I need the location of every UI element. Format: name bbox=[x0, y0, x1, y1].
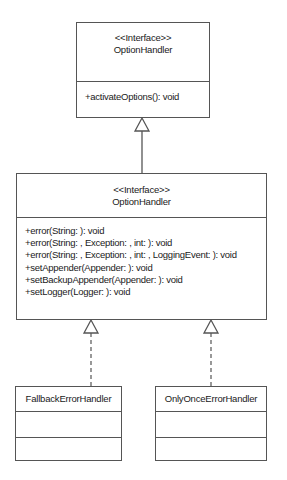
stereotype-label: <<Interface>> bbox=[17, 184, 266, 196]
attributes-compartment bbox=[156, 411, 266, 438]
operations-compartment bbox=[156, 437, 266, 461]
operation: +activateOptions(): void bbox=[77, 82, 209, 103]
interface-name: OptionHandler bbox=[17, 196, 266, 208]
operation: +setBackupAppender(Appender: ): void bbox=[17, 274, 266, 286]
operation: +setAppender(Appender: ): void bbox=[17, 262, 266, 274]
top-interface-box: <<Interface>> OptionHandler +activateOpt… bbox=[76, 22, 210, 118]
class-name: OnlyOnceErrorHandler bbox=[156, 393, 266, 405]
fallback-error-handler-box: FallbackErrorHandler bbox=[15, 386, 122, 461]
middle-interface-header: <<Interface>> OptionHandler bbox=[17, 184, 266, 208]
operation: +setLogger(Logger: ): void bbox=[17, 286, 266, 298]
top-interface-operations: +activateOptions(): void bbox=[77, 81, 209, 103]
operations-compartment bbox=[16, 437, 121, 461]
class-header: OnlyOnceErrorHandler bbox=[156, 393, 266, 405]
operation: +error(String: , Exception: , int: , Log… bbox=[17, 249, 266, 261]
operation: +error(String: ): void bbox=[17, 225, 266, 237]
generalization-arrow bbox=[135, 118, 149, 173]
top-interface-header: <<Interface>> OptionHandler bbox=[77, 32, 209, 56]
interface-name: OptionHandler bbox=[77, 44, 209, 56]
middle-interface-operations: +error(String: ): void +error(String: , … bbox=[17, 217, 266, 298]
attributes-compartment bbox=[16, 411, 121, 438]
class-name: FallbackErrorHandler bbox=[16, 393, 121, 405]
only-once-error-handler-box: OnlyOnceErrorHandler bbox=[155, 386, 267, 461]
class-header: FallbackErrorHandler bbox=[16, 393, 121, 405]
stereotype-label: <<Interface>> bbox=[77, 32, 209, 44]
operation: +error(String: , Exception: , int: ): vo… bbox=[17, 237, 266, 249]
middle-interface-box: <<Interface>> OptionHandler +error(Strin… bbox=[16, 173, 267, 320]
realization-arrow-fallback bbox=[84, 320, 98, 386]
realization-arrow-onlyonce bbox=[204, 320, 218, 386]
